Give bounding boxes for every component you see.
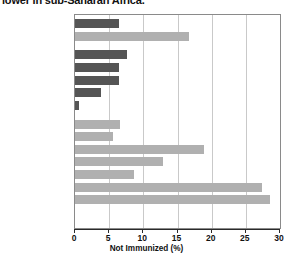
bar	[75, 132, 113, 141]
x-tick-label: 15	[162, 233, 192, 243]
bar-rows: DevelopedDevelopingNorth AmericaEuropeSo…	[75, 15, 280, 228]
bar-row: Southwest Asia and North Africa	[75, 143, 280, 156]
bar-row: Central Asia	[75, 169, 280, 182]
bar-row: Japan	[75, 87, 280, 100]
bar-row: Sub-Saharan Africa	[75, 194, 280, 207]
bar-row: South Asia	[75, 181, 280, 194]
x-tick-label: 30	[264, 233, 294, 243]
x-tick-label: 0	[59, 233, 89, 243]
bar-row: Southeast Asia	[75, 156, 280, 169]
bar	[75, 32, 189, 41]
bar-row: Developing	[75, 30, 280, 43]
chart-figure: DevelopedDevelopingNorth AmericaEuropeSo…	[0, 8, 293, 246]
bar	[75, 88, 101, 97]
bar-row: Latin America	[75, 118, 280, 131]
x-tick-label: 20	[196, 233, 226, 243]
bar-row: Developed	[75, 18, 280, 31]
bar	[75, 120, 120, 129]
chart-title: lower in sub-Saharan Africa.	[0, 0, 293, 7]
x-tick-label: 10	[127, 233, 157, 243]
bar-row: Russia	[75, 99, 280, 112]
bar-row: North America	[75, 49, 280, 62]
bar	[75, 50, 127, 59]
bar-row: Europe	[75, 62, 280, 75]
bar	[75, 183, 262, 192]
bar	[75, 195, 270, 204]
x-tick-label: 5	[93, 233, 123, 243]
bar	[75, 76, 119, 85]
bar	[75, 19, 119, 28]
bar-row: South Pacific	[75, 74, 280, 87]
chart-title-text: lower in sub-Saharan Africa.	[2, 0, 293, 6]
x-axis-label: Not Immunized (%)	[0, 244, 293, 253]
bar	[75, 63, 119, 72]
bar	[75, 145, 204, 154]
bar	[75, 170, 134, 179]
bar	[75, 157, 163, 166]
bar-row: East Asia	[75, 131, 280, 144]
plot-area: DevelopedDevelopingNorth AmericaEuropeSo…	[74, 14, 281, 229]
bar	[75, 101, 79, 110]
x-tick-label: 25	[230, 233, 260, 243]
